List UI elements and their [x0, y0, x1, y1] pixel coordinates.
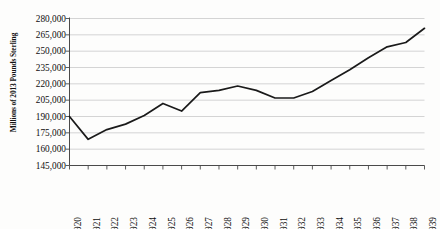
x-tick-label: 1938	[409, 217, 419, 229]
x-tick-label: 1928	[223, 217, 233, 229]
x-tick-label: 1935	[353, 217, 363, 229]
y-tick-marks	[66, 19, 70, 166]
x-tick-label: 1933	[316, 217, 326, 229]
axis-lines	[70, 18, 425, 166]
x-tick-label: 1923	[129, 217, 139, 229]
x-tick-label: 1925	[167, 217, 177, 229]
x-tick-label: 1929	[241, 217, 251, 229]
x-tick-label: 1934	[335, 217, 345, 229]
x-axis-tick-labels: 1920192119221923192419251926192719281929…	[0, 171, 440, 229]
x-tick-label: 1924	[148, 217, 158, 229]
x-tick-label: 1937	[391, 217, 401, 229]
line-chart-figure: Millions of 2013 Pounds Sterling 145,000…	[0, 0, 440, 229]
x-tick-marks	[70, 166, 425, 170]
x-tick-label: 1921	[92, 217, 102, 229]
x-tick-label: 1920	[73, 217, 83, 229]
gridlines	[70, 19, 425, 166]
x-tick-label: 1926	[185, 217, 195, 229]
x-tick-label: 1931	[279, 217, 289, 229]
x-tick-label: 1939	[428, 217, 438, 229]
x-tick-label: 1936	[372, 217, 382, 229]
x-tick-label: 1930	[260, 217, 270, 229]
x-tick-label: 1927	[204, 217, 214, 229]
x-tick-label: 1932	[297, 217, 307, 229]
x-tick-label: 1922	[110, 217, 120, 229]
